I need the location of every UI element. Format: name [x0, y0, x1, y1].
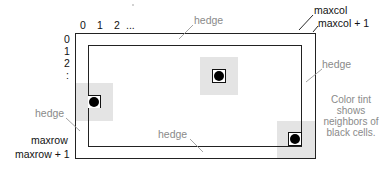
pointer-lines — [0, 0, 385, 169]
maxcol-plus-1-pointer — [313, 26, 318, 32]
hedge-right-pointer — [306, 69, 322, 82]
hedge-bottom-pointer — [190, 139, 203, 152]
hedge-left-pointer — [66, 118, 80, 131]
maxcol-pointer — [299, 15, 313, 30]
hedge-top-pointer — [179, 25, 193, 39]
stray-dot — [132, 4, 134, 6]
